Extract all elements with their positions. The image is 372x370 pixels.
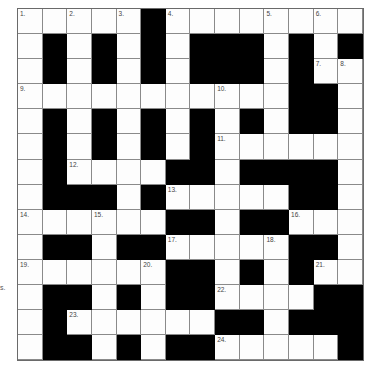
crossword-cell[interactable]: [264, 34, 289, 59]
crossword-cell[interactable]: [338, 109, 363, 134]
crossword-cell[interactable]: [43, 260, 68, 285]
crossword-cell[interactable]: 8.: [338, 59, 363, 84]
crossword-cell[interactable]: 10.: [215, 84, 240, 109]
crossword-cell[interactable]: 19.: [18, 260, 43, 285]
crossword-cell[interactable]: [264, 84, 289, 109]
crossword-cell[interactable]: [92, 9, 117, 34]
crossword-cell[interactable]: [141, 210, 166, 235]
crossword-cell[interactable]: [18, 185, 43, 210]
crossword-cell[interactable]: 13.: [166, 185, 191, 210]
crossword-cell[interactable]: [338, 185, 363, 210]
crossword-cell[interactable]: [18, 109, 43, 134]
crossword-cell[interactable]: 16.: [289, 210, 314, 235]
crossword-cell[interactable]: [67, 134, 92, 159]
crossword-cell[interactable]: [264, 260, 289, 285]
crossword-cell[interactable]: [67, 210, 92, 235]
crossword-cell[interactable]: [338, 235, 363, 260]
crossword-cell[interactable]: [18, 285, 43, 310]
crossword-cell[interactable]: 1.: [18, 9, 43, 34]
crossword-cell[interactable]: [215, 9, 240, 34]
crossword-cell[interactable]: 23.: [67, 310, 92, 335]
crossword-cell[interactable]: 2.: [67, 9, 92, 34]
crossword-cell[interactable]: [215, 160, 240, 185]
crossword-cell[interactable]: 3.: [117, 9, 142, 34]
crossword-cell[interactable]: [166, 310, 191, 335]
crossword-cell[interactable]: [141, 310, 166, 335]
crossword-cell[interactable]: [240, 285, 265, 310]
crossword-cell[interactable]: [166, 34, 191, 59]
crossword-cell[interactable]: [166, 134, 191, 159]
crossword-cell[interactable]: 12.: [67, 160, 92, 185]
crossword-cell[interactable]: 9.: [18, 84, 43, 109]
crossword-cell[interactable]: [314, 210, 339, 235]
crossword-cell[interactable]: [117, 210, 142, 235]
crossword-cell[interactable]: [190, 84, 215, 109]
crossword-cell[interactable]: [92, 335, 117, 360]
crossword-cell[interactable]: [264, 185, 289, 210]
crossword-cell[interactable]: [338, 9, 363, 34]
crossword-cell[interactable]: [190, 9, 215, 34]
crossword-cell[interactable]: [67, 260, 92, 285]
crossword-cell[interactable]: [18, 59, 43, 84]
crossword-cell[interactable]: [264, 109, 289, 134]
crossword-cell[interactable]: [92, 260, 117, 285]
crossword-cell[interactable]: [43, 210, 68, 235]
crossword-cell[interactable]: [240, 235, 265, 260]
crossword-cell[interactable]: [18, 335, 43, 360]
crossword-cell[interactable]: [264, 285, 289, 310]
crossword-cell[interactable]: [166, 59, 191, 84]
crossword-cell[interactable]: [141, 335, 166, 360]
crossword-cell[interactable]: [117, 310, 142, 335]
crossword-cell[interactable]: [141, 84, 166, 109]
crossword-cell[interactable]: [18, 160, 43, 185]
crossword-cell[interactable]: [117, 260, 142, 285]
crossword-cell[interactable]: [190, 235, 215, 260]
crossword-cell[interactable]: [338, 134, 363, 159]
crossword-cell[interactable]: [215, 210, 240, 235]
crossword-cell[interactable]: 24.: [215, 335, 240, 360]
crossword-cell[interactable]: [338, 260, 363, 285]
crossword-cell[interactable]: [190, 185, 215, 210]
crossword-cell[interactable]: 17.: [166, 235, 191, 260]
crossword-cell[interactable]: [215, 235, 240, 260]
crossword-cell[interactable]: [18, 134, 43, 159]
crossword-cell[interactable]: [240, 335, 265, 360]
crossword-cell[interactable]: [67, 34, 92, 59]
crossword-cell[interactable]: [92, 310, 117, 335]
crossword-cell[interactable]: 14.: [18, 210, 43, 235]
crossword-cell[interactable]: [67, 59, 92, 84]
crossword-cell[interactable]: 11.: [215, 134, 240, 159]
crossword-cell[interactable]: [190, 310, 215, 335]
crossword-cell[interactable]: [264, 310, 289, 335]
crossword-cell[interactable]: [314, 335, 339, 360]
crossword-cell[interactable]: 18.: [264, 235, 289, 260]
crossword-cell[interactable]: 7.: [314, 59, 339, 84]
crossword-cell[interactable]: [92, 235, 117, 260]
crossword-cell[interactable]: [289, 9, 314, 34]
crossword-cell[interactable]: [141, 285, 166, 310]
crossword-cell[interactable]: [18, 310, 43, 335]
crossword-cell[interactable]: [314, 34, 339, 59]
crossword-cell[interactable]: [338, 160, 363, 185]
crossword-cell[interactable]: 15.: [92, 210, 117, 235]
crossword-cell[interactable]: [67, 84, 92, 109]
crossword-cell[interactable]: [215, 260, 240, 285]
crossword-cell[interactable]: [240, 84, 265, 109]
crossword-cell[interactable]: 21.: [314, 260, 339, 285]
crossword-cell[interactable]: [43, 84, 68, 109]
crossword-cell[interactable]: [117, 109, 142, 134]
crossword-cell[interactable]: [289, 285, 314, 310]
crossword-cell[interactable]: [117, 59, 142, 84]
crossword-cell[interactable]: [166, 109, 191, 134]
crossword-cell[interactable]: [314, 134, 339, 159]
crossword-cell[interactable]: 20.: [141, 260, 166, 285]
crossword-cell[interactable]: [141, 160, 166, 185]
crossword-cell[interactable]: [92, 84, 117, 109]
crossword-cell[interactable]: [117, 185, 142, 210]
crossword-cell[interactable]: [67, 109, 92, 134]
crossword-cell[interactable]: [43, 9, 68, 34]
crossword-cell[interactable]: [289, 335, 314, 360]
crossword-cell[interactable]: [18, 34, 43, 59]
crossword-cell[interactable]: [338, 210, 363, 235]
crossword-cell[interactable]: 6.: [314, 9, 339, 34]
